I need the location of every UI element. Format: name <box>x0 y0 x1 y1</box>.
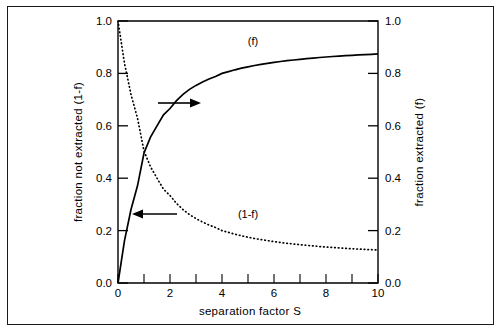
right-tick-label-2: 0.4 <box>385 172 402 184</box>
right-tick-label-3: 0.6 <box>385 120 401 132</box>
right-tick-label-5: 1.0 <box>385 15 401 27</box>
x-tick-label-8: 8 <box>323 287 329 299</box>
left-tick-label-0: 0.0 <box>96 277 112 289</box>
f-curve-label: (f) <box>248 35 258 47</box>
arrow-to-right-axis <box>158 99 201 108</box>
x-tick-label-2: 2 <box>167 287 173 299</box>
x-tick-label-6: 6 <box>271 287 277 299</box>
left-axis-tick-labels: 0.0 0.2 0.4 0.6 0.8 1.0 <box>96 15 113 289</box>
x-tick-label-4: 4 <box>219 287 226 299</box>
chart-canvas: 0.0 0.2 0.4 0.6 0.8 1.0 0.0 0.2 0.4 0.6 … <box>0 0 502 333</box>
left-tick-label-4: 0.8 <box>96 67 112 79</box>
axis-frame <box>118 21 378 283</box>
left-axis-ticks <box>118 21 128 283</box>
x-tick-label-10: 10 <box>372 287 385 299</box>
right-tick-label-0: 0.0 <box>385 277 401 289</box>
y-axis-title: fraction not extracted (1-f) <box>72 82 84 222</box>
x-tick-label-0: 0 <box>115 287 121 299</box>
x-axis-ticks <box>118 274 378 283</box>
left-tick-label-3: 0.6 <box>96 120 112 132</box>
one-minus-f-curve-label: (1-f) <box>238 208 258 220</box>
right-axis-ticks <box>368 21 378 283</box>
right-tick-label-1: 0.2 <box>385 225 401 237</box>
arrow-to-left-axis <box>132 210 177 219</box>
left-tick-label-5: 1.0 <box>96 15 112 27</box>
left-tick-label-2: 0.4 <box>96 172 113 184</box>
right-tick-label-4: 0.8 <box>385 67 401 79</box>
y2-axis-title: fraction extracted (f) <box>413 98 425 207</box>
right-axis-tick-labels: 0.0 0.2 0.4 0.6 0.8 1.0 <box>385 15 402 289</box>
left-tick-label-1: 0.2 <box>96 225 112 237</box>
x-axis-tick-labels: 0 2 4 6 8 10 <box>115 287 385 299</box>
plot-axes <box>118 21 378 283</box>
figure-container: 0.0 0.2 0.4 0.6 0.8 1.0 0.0 0.2 0.4 0.6 … <box>0 0 502 333</box>
x-axis-title: separation factor S <box>199 305 301 317</box>
